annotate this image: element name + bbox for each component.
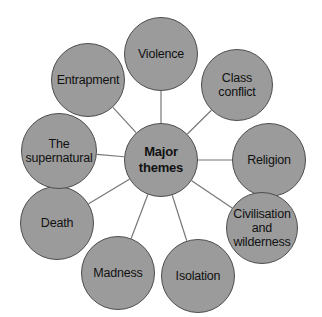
node-violence[interactable]: Violence <box>124 17 198 91</box>
node-isolation-label: Isolation <box>162 269 234 283</box>
node-isolation[interactable]: Isolation <box>161 239 235 313</box>
node-civilisation-and-wilderness[interactable]: Civilisation and wilderness <box>226 192 298 264</box>
node-entrapment[interactable]: Entrapment <box>51 43 125 117</box>
node-class-conflict-label: Class conflict <box>202 71 272 99</box>
center-node-major-themes[interactable]: Major themes <box>124 123 198 197</box>
node-religion[interactable]: Religion <box>232 123 306 197</box>
node-entrapment-label: Entrapment <box>52 73 124 87</box>
node-the-supernatural-label: The supernatural <box>22 137 96 165</box>
node-the-supernatural[interactable]: The supernatural <box>21 113 97 189</box>
center-node-label: Major themes <box>126 144 196 175</box>
node-class-conflict[interactable]: Class conflict <box>201 49 273 121</box>
node-death-label: Death <box>21 216 93 230</box>
node-civilisation-and-wilderness-label: Civilisation and wilderness <box>227 207 297 249</box>
node-religion-label: Religion <box>233 153 305 167</box>
mind-map-diagram: Major themes Violence Class conflict Rel… <box>0 0 322 317</box>
node-violence-label: Violence <box>125 47 197 61</box>
node-madness[interactable]: Madness <box>81 236 155 310</box>
node-death[interactable]: Death <box>20 186 94 260</box>
node-madness-label: Madness <box>82 266 154 280</box>
